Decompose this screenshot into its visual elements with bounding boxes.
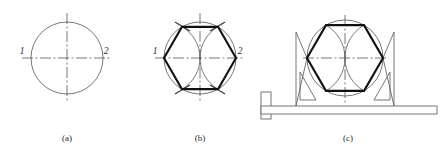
right-set-square-inner-cutout <box>374 72 390 100</box>
panel-a-caption: (a) <box>62 133 72 143</box>
panel-a-point-label-1: 1 <box>20 46 25 56</box>
left-set-square <box>296 32 307 106</box>
left-set-square-inner-cutout <box>300 72 316 100</box>
hexagon-construction-figure: 1 2 (a) 1 2 (b) <box>0 0 443 152</box>
panel-c-caption: (c) <box>343 133 353 143</box>
panel-b: 1 2 (b) <box>153 13 245 143</box>
tsquare-blade <box>261 106 437 114</box>
panel-b-caption: (b) <box>195 133 206 143</box>
panel-c: (c) <box>261 15 437 143</box>
panel-b-point-label-1: 1 <box>153 46 158 56</box>
panel-b-point-label-2: 2 <box>238 46 243 56</box>
figure-container: 1 2 (a) 1 2 (b) <box>0 0 443 152</box>
tsquare-head <box>261 92 271 119</box>
panel-a: 1 2 (a) <box>20 13 112 143</box>
panel-a-point-label-2: 2 <box>104 46 109 56</box>
right-set-square <box>383 32 394 106</box>
